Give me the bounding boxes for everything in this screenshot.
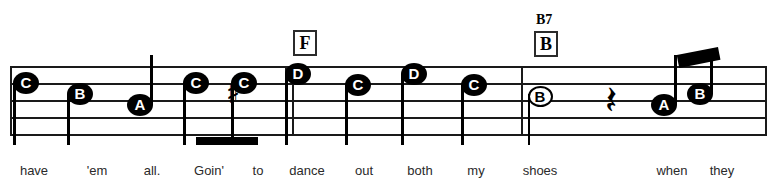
lyric-syllable-2: all. [144, 163, 161, 178]
stem-c-6 [345, 85, 348, 145]
lyric-syllable-6: out [355, 163, 373, 178]
staff-line-4 [10, 117, 767, 119]
lyric-syllable-8: my [467, 163, 484, 178]
notehead-d-7: D [401, 63, 427, 85]
stem-b-1 [67, 94, 70, 145]
notehead-c-8: C [461, 74, 487, 96]
barline-start [10, 66, 12, 136]
barline-end [765, 66, 767, 136]
notehead-a-2: A [127, 94, 153, 116]
lyric-syllable-7: both [407, 163, 432, 178]
music-notation-sheet: CBACCDCDCBAB ♯ 𝄽 FB7B have'emall.Goin'to… [0, 0, 777, 189]
stem-c-3 [183, 83, 186, 145]
notehead-c-6: C [345, 74, 371, 96]
sharp-accidental: ♯ [226, 78, 241, 108]
lyric-syllable-11: they [710, 163, 735, 178]
stem-c-0 [13, 83, 16, 145]
beam-a-b [677, 47, 721, 68]
stem-c-8 [461, 85, 464, 145]
notehead-c-3: C [183, 72, 209, 94]
chord-name-b7: B7 [536, 12, 552, 28]
lyric-syllable-3: Goin' [194, 163, 224, 178]
lyric-syllable-0: have [20, 163, 48, 178]
notehead-d-5: D [285, 63, 311, 85]
notehead-a-10: A [651, 94, 677, 116]
notehead-b-9: B [528, 86, 553, 107]
beam-c-csharp [196, 137, 258, 145]
lyric-syllable-4: to [253, 163, 264, 178]
staff-line-1 [10, 66, 767, 68]
staff-line-2 [10, 83, 767, 85]
chord-box-b7[interactable]: B [534, 31, 558, 57]
chord-box-f[interactable]: F [293, 30, 317, 56]
stem-d-7 [401, 74, 404, 145]
barline-measure [521, 66, 523, 136]
quarter-rest: 𝄽 [605, 80, 617, 120]
notehead-b-1: B [67, 83, 93, 105]
lyric-syllable-10: when [656, 163, 687, 178]
lyric-syllable-1: 'em [87, 163, 108, 178]
lyric-syllable-9: shoes [523, 163, 558, 178]
stem-d-5 [285, 74, 288, 145]
staff-line-5 [10, 134, 767, 136]
lyric-syllable-5: dance [289, 163, 324, 178]
notehead-c-0: C [13, 72, 39, 94]
notehead-b-11: B [687, 83, 713, 105]
